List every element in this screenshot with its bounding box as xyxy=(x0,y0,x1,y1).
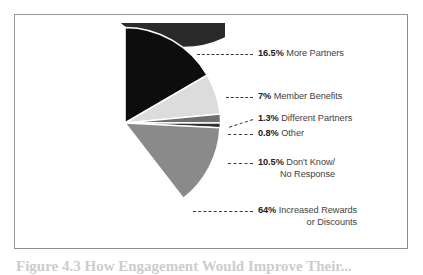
leader-line-other xyxy=(228,134,253,135)
callout-description: Increased Rewards xyxy=(279,205,357,215)
leader-line-more-partners xyxy=(197,54,253,55)
callout-description: Member Benefits xyxy=(274,91,343,101)
callout-other[interactable]: 0.8% Other xyxy=(258,128,304,140)
callout-description: Other xyxy=(281,128,304,138)
callout-percent: 1.3% xyxy=(258,113,279,123)
figure-caption: Figure 4.3 How Engagement Would Improve … xyxy=(16,258,416,275)
callout-percent: 7% xyxy=(258,91,271,101)
pie-slices xyxy=(88,23,225,199)
figure-frame: 16.5% More Partners 7% Member Benefits 1… xyxy=(14,14,408,249)
callout-different-partners[interactable]: 1.3% Different Partners xyxy=(258,113,352,125)
pie-slice-dont-know[interactable] xyxy=(125,123,220,199)
callout-description: Different Partners xyxy=(281,113,352,123)
pie-chart: 16.5% More Partners 7% Member Benefits 1… xyxy=(15,15,409,250)
leader-line-different-partners xyxy=(229,119,253,128)
callout-increased-rewards[interactable]: 64% Increased Rewards or Discounts xyxy=(258,205,357,228)
callout-dont-know[interactable]: 10.5% Don't Know/ No Response xyxy=(258,157,335,180)
leader-line-dont-know xyxy=(228,163,253,164)
callout-percent: 10.5% xyxy=(258,157,284,167)
callout-description-line2: No Response xyxy=(258,169,335,181)
callout-description: Don't Know/ xyxy=(286,157,335,167)
callout-member-benefits[interactable]: 7% Member Benefits xyxy=(258,91,342,103)
callout-more-partners[interactable]: 16.5% More Partners xyxy=(258,48,344,60)
pie-graphic xyxy=(25,23,225,223)
leader-line-member-benefits xyxy=(226,97,253,98)
callout-percent: 0.8% xyxy=(258,128,279,138)
callout-description-line2: or Discounts xyxy=(258,217,357,229)
callout-percent: 16.5% xyxy=(258,48,284,58)
leader-line-increased-rewards xyxy=(193,211,253,212)
callout-percent: 64% xyxy=(258,205,276,215)
callout-description: More Partners xyxy=(286,48,344,58)
